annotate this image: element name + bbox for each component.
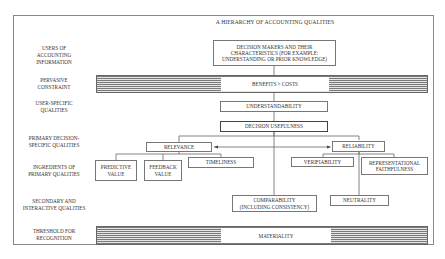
band-benefits-costs: BENEFITS > COSTS bbox=[96, 75, 428, 93]
node-text: (INCLUDING CONSISTENCY) bbox=[240, 204, 309, 210]
node-text: VALUE bbox=[155, 171, 172, 177]
node-timeliness: TIMELINESS bbox=[188, 157, 254, 168]
benefits-costs-label: BENEFITS > COSTS bbox=[221, 77, 329, 91]
node-reliability: RELIABILITY bbox=[332, 141, 385, 152]
node-text: FAITHFULNESS bbox=[376, 166, 413, 172]
node-decision-makers: DECISION MAKERS AND THEIR CHARACTERISTIC… bbox=[213, 40, 336, 66]
node-understandability: UNDERSTANDABILITY bbox=[220, 101, 328, 112]
band-materiality: MATERIALITY bbox=[96, 226, 428, 245]
node-feedback-value: FEEDBACK VALUE bbox=[144, 160, 182, 181]
node-decision-usefulness: DECISION USEFULNESS bbox=[220, 121, 328, 132]
node-relevance: RELEVANCE bbox=[146, 142, 212, 152]
node-verifiability: VERIFIABILITY bbox=[291, 157, 354, 167]
node-comparability: COMPARABILITY (INCLUDING CONSISTENCY) bbox=[232, 195, 317, 212]
node-text: VALUE bbox=[108, 171, 125, 177]
node-predictive-value: PREDICTIVE VALUE bbox=[95, 160, 137, 181]
node-text: UNDERSTANDING OR PRIOR KNOWLEDGE) bbox=[222, 56, 327, 62]
node-representational-faithfulness: REPRESENTATIONAL FAITHFULNESS bbox=[361, 157, 428, 175]
node-neutrality: NEUTRALITY bbox=[330, 195, 389, 206]
materiality-label: MATERIALITY bbox=[221, 228, 331, 243]
